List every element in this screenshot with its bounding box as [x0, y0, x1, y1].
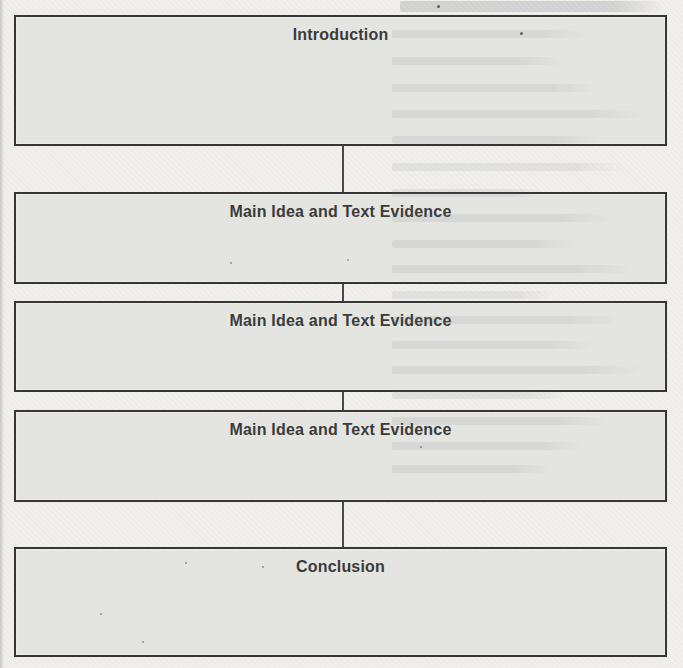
main-idea-3-writing-space: [16, 442, 665, 500]
bleed-through-line: [400, 1, 662, 12]
bleed-through-line: [392, 163, 624, 171]
conclusion-writing-space: [16, 579, 665, 655]
main-idea-3-box-title: Main Idea and Text Evidence: [16, 412, 665, 439]
flowchart-box-conclusion: Conclusion: [14, 547, 667, 657]
connector-line-2: [342, 284, 344, 301]
connector-line-3: [342, 392, 344, 410]
flowchart-box-main-idea-1: Main Idea and Text Evidence: [14, 192, 667, 284]
bleed-through-line: [392, 291, 552, 299]
main-idea-2-writing-space: [16, 333, 665, 390]
flowchart-box-main-idea-2: Main Idea and Text Evidence: [14, 301, 667, 392]
main-idea-1-writing-space: [16, 224, 665, 282]
flowchart-box-introduction: Introduction: [14, 15, 667, 146]
main-idea-2-box-title: Main Idea and Text Evidence: [16, 303, 665, 330]
introduction-writing-space: [16, 47, 665, 144]
scan-speck: [437, 5, 440, 8]
conclusion-box-title: Conclusion: [16, 549, 665, 576]
page-edge-shadow: [0, 0, 4, 668]
worksheet-page: Introduction Main Idea and Text Evidence…: [0, 0, 683, 668]
bleed-through-line: [392, 391, 567, 399]
connector-line-4: [342, 502, 344, 547]
flowchart-box-main-idea-3: Main Idea and Text Evidence: [14, 410, 667, 502]
connector-line-1: [342, 146, 344, 192]
main-idea-1-box-title: Main Idea and Text Evidence: [16, 194, 665, 221]
introduction-box-title: Introduction: [16, 17, 665, 44]
